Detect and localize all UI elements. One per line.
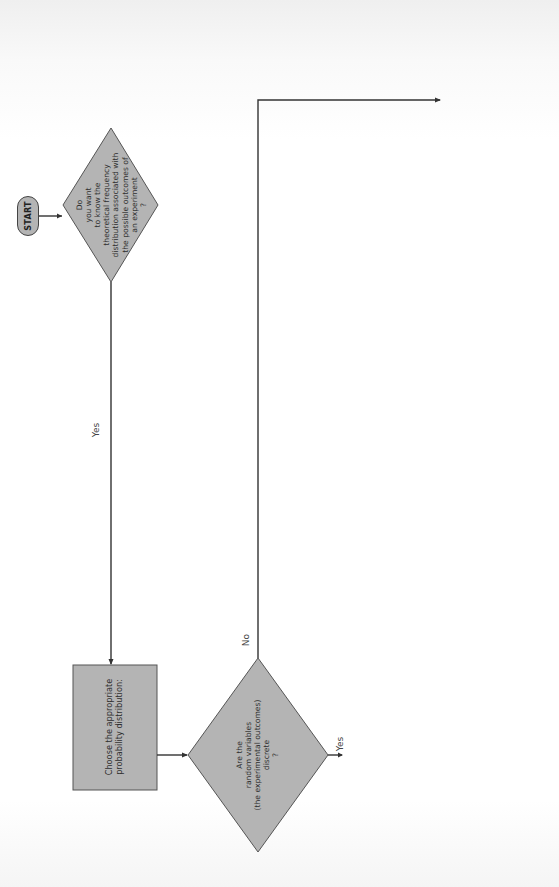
- edge-label-want-yes: Yes: [91, 423, 102, 438]
- discrete-question-text: Are the random variables (the experiment…: [235, 670, 281, 840]
- start-terminal: START: [17, 196, 39, 236]
- choose-distribution-text: Choose the appropriate probability distr…: [105, 667, 125, 787]
- want-distribution-text: Do you want to know the theoretical freq…: [75, 130, 148, 280]
- edge-label-discrete-yes: Yes: [335, 737, 346, 752]
- edge-label-discrete-no: No: [241, 634, 252, 646]
- start-label: START: [24, 201, 33, 231]
